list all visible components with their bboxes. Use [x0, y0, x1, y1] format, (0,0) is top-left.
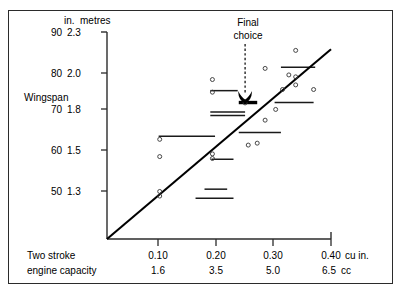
x-tick-label-cuin-0-30: 0.30	[263, 250, 283, 261]
chart-svg: in. metres Wingspan 90 80 70 60 50 2.3 2…	[0, 0, 406, 296]
y-tick-label-in-70: 70	[51, 104, 63, 115]
y-tick-label-m-1-8: 1.8	[67, 104, 81, 115]
data-point	[210, 152, 214, 156]
data-point	[287, 73, 291, 77]
y-tick-label-m-1-3: 1.3	[67, 186, 81, 197]
annotation-label-line2: choice	[234, 30, 263, 41]
data-point	[158, 137, 162, 141]
data-point	[263, 66, 267, 70]
data-point	[158, 189, 162, 193]
y-tick-label-m-1-5: 1.5	[67, 145, 81, 156]
data-point	[255, 141, 259, 145]
y-unit-header-metres: metres	[80, 15, 111, 26]
x-tick-label-cc-5-0: 5.0	[266, 265, 280, 276]
x-unit-cu-in: cu in.	[345, 250, 369, 261]
x-tick-label-cuin-0-10: 0.10	[148, 250, 168, 261]
range-bars-layer	[159, 67, 316, 198]
x-tick-label-cc-6-5: 6.5	[322, 265, 336, 276]
data-point	[294, 83, 298, 87]
y-tick-label-m-2-0: 2.0	[67, 68, 81, 79]
x-tick-label-cuin-0-40: 0.40	[321, 250, 341, 261]
data-point	[210, 78, 214, 82]
data-point	[263, 118, 267, 122]
y-tick-label-m-2-3: 2.3	[67, 27, 81, 38]
data-point	[246, 143, 250, 147]
data-point	[158, 155, 162, 159]
data-point	[274, 107, 278, 111]
x-axis-label-line2: engine capacity	[27, 265, 97, 276]
y-tick-label-in-90: 90	[51, 27, 63, 38]
chart-page: in. metres Wingspan 90 80 70 60 50 2.3 2…	[0, 0, 406, 296]
y-axis-label: Wingspan	[24, 92, 68, 103]
x-unit-cc: cc	[341, 265, 351, 276]
y-unit-header-in: in.	[64, 15, 75, 26]
y-tick-label-in-50: 50	[51, 186, 63, 197]
data-point	[312, 88, 316, 92]
x-tick-label-cc-3-5: 3.5	[209, 265, 223, 276]
x-axis-label-line1: Two stroke	[27, 250, 76, 261]
data-point	[294, 48, 298, 52]
x-tick-label-cc-1-6: 1.6	[151, 265, 165, 276]
y-tick-label-in-60: 60	[51, 145, 63, 156]
annotation-label-line1: Final	[237, 17, 259, 28]
y-tick-label-in-80: 80	[51, 68, 63, 79]
x-tick-label-cuin-0-20: 0.20	[206, 250, 226, 261]
